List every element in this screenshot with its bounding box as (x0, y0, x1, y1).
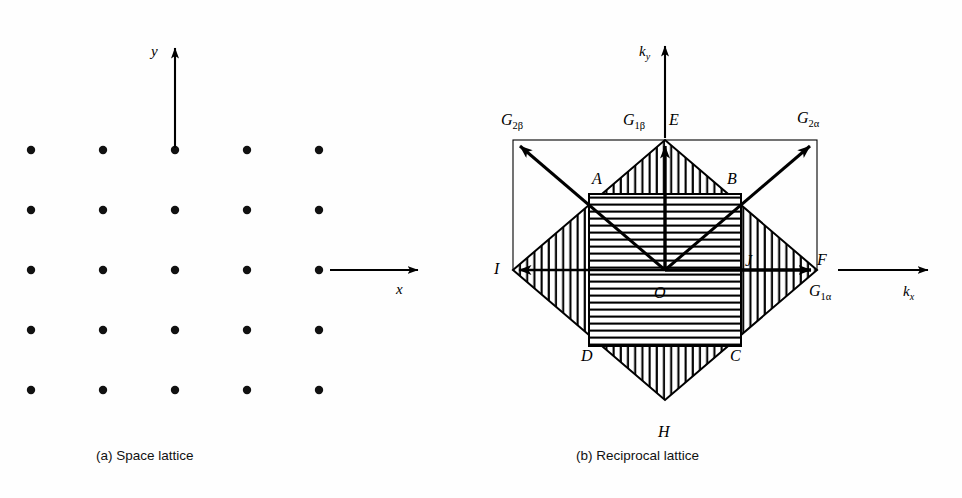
label-G2beta: G2β (501, 112, 523, 132)
kx-axis-base: k (903, 283, 910, 299)
G2alpha-sub: 2α (809, 118, 820, 129)
lattice-point (243, 146, 251, 154)
label-G1alpha: G1α (809, 283, 831, 303)
lattice-point (27, 326, 35, 334)
label-point-B: B (727, 171, 737, 187)
label-point-J: J (745, 253, 752, 269)
lattice-point (171, 206, 179, 214)
lattice-point (315, 146, 323, 154)
ky-axis-sub: y (646, 51, 650, 62)
lattice-point (99, 326, 107, 334)
label-point-E: E (669, 112, 679, 128)
reciprocal-ky-axis-label: ky (639, 44, 650, 62)
label-point-A: A (592, 171, 602, 187)
lattice-point (99, 146, 107, 154)
lattice-point (171, 386, 179, 394)
label-point-F: F (817, 252, 827, 268)
label-point-O: O (654, 285, 666, 301)
G2beta-sub: 2β (513, 120, 524, 131)
label-point-H: H (658, 424, 670, 440)
lattice-point (315, 386, 323, 394)
lattice-point (243, 386, 251, 394)
space-lattice-x-axis-label: x (396, 282, 403, 297)
space-lattice-y-axis-label: y (151, 44, 158, 59)
label-G2alpha: G2α (797, 110, 819, 130)
label-G1beta: G1β (623, 112, 645, 132)
caption-panel-a: (a) Space lattice (96, 448, 194, 463)
lattice-point (171, 266, 179, 274)
G1beta-sub: 1β (635, 120, 646, 131)
caption-panel-b: (b) Reciprocal lattice (576, 448, 699, 463)
lattice-point (27, 146, 35, 154)
lattice-point (315, 326, 323, 334)
lattice-point (315, 206, 323, 214)
G1beta-base: G (623, 111, 635, 128)
label-point-D: D (581, 348, 593, 364)
lattice-point (99, 206, 107, 214)
lattice-point (243, 206, 251, 214)
label-point-I: I (494, 261, 499, 277)
G2beta-base: G (501, 111, 513, 128)
G1alpha-sub: 1α (821, 291, 832, 302)
lattice-point (99, 266, 107, 274)
G1alpha-base: G (809, 282, 821, 299)
ky-axis-base: k (639, 43, 646, 59)
lattice-point (243, 266, 251, 274)
lattice-point (243, 326, 251, 334)
panel-reciprocal-lattice (513, 46, 928, 400)
lattice-point (315, 266, 323, 274)
label-point-C: C (730, 348, 741, 364)
figure-canvas (0, 0, 962, 498)
lattice-point (99, 386, 107, 394)
kx-axis-sub: x (910, 291, 914, 302)
lattice-point (171, 326, 179, 334)
lattice-point (27, 386, 35, 394)
G2alpha-base: G (797, 109, 809, 126)
panel-space-lattice (27, 48, 418, 394)
lattice-point (27, 266, 35, 274)
reciprocal-kx-axis-label: kx (903, 284, 914, 302)
lattice-point (27, 206, 35, 214)
lattice-point-grid (27, 146, 323, 394)
